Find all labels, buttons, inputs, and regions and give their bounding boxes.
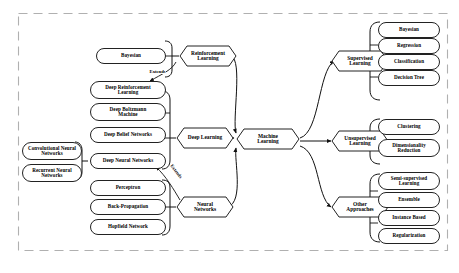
leaf-label: Deep Neural Networks <box>103 158 154 163</box>
leaf-supervised-regression[interactable]: Regression <box>378 38 440 54</box>
node-label-line2: Approaches <box>346 206 373 212</box>
leaf-label-line2: Learning <box>118 89 139 95</box>
leaf-label: Ensemble <box>398 197 420 202</box>
leaf-other-semi-supervised-learning[interactable]: Semi-supervised Learning <box>378 172 440 190</box>
node-label-line2: Learning <box>197 55 218 61</box>
leaf-label-line2: Learning <box>399 180 420 186</box>
leaf-label: Bayesian <box>399 27 419 32</box>
leaf-label: Hopfield Network <box>108 224 148 229</box>
leaf-supervised-classification[interactable]: Classification <box>378 54 440 70</box>
leaf-reinforcement-bayesian[interactable]: Bayesian <box>96 48 166 64</box>
node-label-line2: Learning <box>349 60 370 66</box>
leaf-supervised-bayesian[interactable]: Bayesian <box>378 22 440 38</box>
edge-label-extends-reinforcement: Extends <box>149 69 166 74</box>
leaf-recurrent-neural-networks[interactable]: Recurrent Neural Networks <box>22 164 82 182</box>
leaf-deep-neural-networks[interactable]: Deep Neural Networks <box>90 153 166 169</box>
leaf-label: Regularization <box>393 233 426 238</box>
leaf-unsupervised-dimensionality-reduction[interactable]: Dimensionality Reduction <box>378 139 440 157</box>
leaf-label: Deep Belief Networks <box>104 132 152 137</box>
leaf-label: Regression <box>397 43 421 48</box>
node-label-line2: Learning <box>349 140 370 146</box>
leaf-deep-belief-networks[interactable]: Deep Belief Networks <box>90 127 166 143</box>
mindmap-canvas: Machine Learning Supervised Learning Uns… <box>0 0 459 273</box>
leaf-label: Classification <box>394 59 424 64</box>
leaf-label-line2: Networks <box>41 150 62 156</box>
leaf-deep-boltzmann-machine[interactable]: Deep Boltzmann Machine <box>90 103 166 121</box>
node-reinforcement-learning[interactable]: Reinforcement Learning <box>179 45 237 67</box>
leaf-hopfield-network[interactable]: Hopfield Network <box>90 219 166 235</box>
leaf-convolutional-neural-networks[interactable]: Convolutional Neural Networks <box>22 142 82 160</box>
leaf-back-propagation[interactable]: Back-Propagation <box>90 199 166 215</box>
leaf-label-line2: Machine <box>118 111 137 117</box>
leaf-deep-reinforcement-learning[interactable]: Deep Reinforcement Learning <box>90 81 166 99</box>
node-label-line1: Deep Learning <box>188 134 222 140</box>
leaf-label: Perceptron <box>116 185 141 190</box>
node-label-line2: Learning <box>257 138 278 144</box>
leaf-other-regularization[interactable]: Regularization <box>378 228 440 244</box>
leaf-supervised-decision-tree[interactable]: Decision Tree <box>378 70 440 86</box>
leaf-label: Decision Tree <box>394 75 424 80</box>
leaf-label: Instance Based <box>392 215 425 220</box>
leaf-unsupervised-clustering[interactable]: Clustering <box>378 119 440 135</box>
leaf-label: Back-Propagation <box>108 204 148 209</box>
leaf-label-line2: Reduction <box>398 147 421 153</box>
leaf-label: Bayesian <box>121 53 141 58</box>
leaf-perceptron[interactable]: Perceptron <box>90 180 166 196</box>
node-label-line2: Networks <box>194 206 216 212</box>
leaf-label: Clustering <box>397 124 420 129</box>
node-machine-learning[interactable]: Machine Learning <box>236 128 300 150</box>
leaf-other-ensemble[interactable]: Ensemble <box>378 192 440 208</box>
node-neural-networks[interactable]: Neural Networks <box>176 196 234 218</box>
leaf-other-instance-based[interactable]: Instance Based <box>378 210 440 226</box>
node-deep-learning[interactable]: Deep Learning <box>176 127 234 149</box>
leaf-label-line2: Networks <box>41 172 62 178</box>
